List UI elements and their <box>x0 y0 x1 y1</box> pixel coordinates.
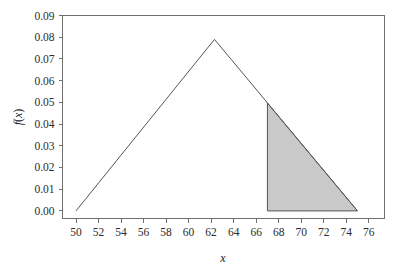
triangular-distribution-chart: 0.000.010.020.030.040.050.060.070.080.09… <box>0 0 403 278</box>
y-tick-label: 0.02 <box>34 161 54 173</box>
x-tick-label: 72 <box>318 226 330 238</box>
y-tick-label: 0.07 <box>34 53 54 65</box>
y-tick-label: 0.04 <box>34 118 54 130</box>
y-tick-label: 0.05 <box>34 96 54 108</box>
x-axis-title: x <box>219 251 226 265</box>
y-tick-label: 0.06 <box>34 75 54 87</box>
x-tick-label: 74 <box>340 226 352 238</box>
figure-panel: 0.000.010.020.030.040.050.060.070.080.09… <box>0 0 403 278</box>
y-axis-title: f(x) <box>11 109 25 126</box>
x-tick-label: 58 <box>160 226 172 238</box>
y-tick-label: 0.01 <box>34 183 54 195</box>
x-tick-label: 54 <box>115 226 127 238</box>
x-tick-label: 66 <box>250 226 262 238</box>
x-axis-ticks <box>76 219 369 223</box>
x-tick-label: 56 <box>138 226 150 238</box>
x-tick-label: 60 <box>183 226 195 238</box>
x-tick-label: 68 <box>273 226 285 238</box>
y-axis-title-group: f(x) <box>11 109 25 126</box>
y-tick-label: 0.03 <box>34 140 54 152</box>
y-tick-label: 0.00 <box>34 205 54 217</box>
x-axis-tick-labels: 5052545658606264666870727476 <box>70 226 374 238</box>
x-tick-label: 76 <box>363 226 375 238</box>
x-tick-label: 64 <box>228 226 240 238</box>
y-tick-label: 0.09 <box>34 10 54 22</box>
y-axis-tick-labels: 0.000.010.020.030.040.050.060.070.080.09 <box>34 10 54 217</box>
y-tick-label: 0.08 <box>34 31 54 43</box>
x-tick-label: 50 <box>70 226 82 238</box>
y-axis-ticks <box>59 16 63 211</box>
x-tick-label: 52 <box>93 226 105 238</box>
x-tick-label: 70 <box>295 226 307 238</box>
x-tick-label: 62 <box>205 226 217 238</box>
